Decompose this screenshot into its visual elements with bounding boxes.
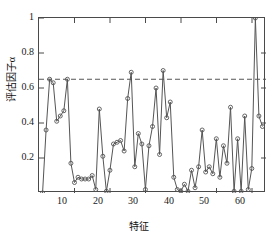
y-axis-title-text: 评估因子α: [6, 57, 17, 102]
y-tick-label-0.2: 0.2: [0, 152, 34, 162]
y-tick-label-0.4: 0.4: [0, 117, 34, 127]
x-tick-label-50: 50: [192, 196, 216, 206]
x-tick-label-40: 40: [157, 196, 181, 206]
data-point-markers: [41, 18, 265, 193]
chart-canvas: [39, 18, 266, 193]
figure-root: 1 0.8 0.6 0.4 0.2 10 20 30 40 50 60 评估因子…: [0, 0, 278, 236]
y-tick-label-1: 1: [0, 12, 34, 22]
x-tick-label-60: 60: [228, 196, 252, 206]
x-tick-label-10: 10: [50, 196, 74, 206]
x-tick-label-30: 30: [121, 196, 145, 206]
x-tick-label-20: 20: [86, 196, 110, 206]
x-axis-title: 特征: [0, 218, 278, 233]
y-axis-title: 评估因子α: [3, 50, 18, 110]
plot-area: [38, 17, 265, 192]
